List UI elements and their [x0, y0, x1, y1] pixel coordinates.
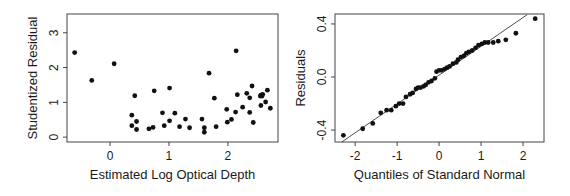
- data-point: [533, 16, 538, 21]
- data-point: [160, 110, 165, 115]
- data-point: [513, 31, 518, 36]
- data-point: [234, 48, 239, 53]
- x-tick-label: 1: [478, 149, 485, 163]
- data-point: [389, 108, 394, 113]
- data-point: [496, 39, 501, 44]
- data-point: [214, 124, 219, 129]
- data-point: [486, 40, 491, 45]
- data-point: [89, 78, 94, 83]
- data-point: [200, 117, 205, 122]
- data-point: [247, 95, 252, 100]
- data-point: [112, 61, 117, 66]
- data-point: [265, 88, 270, 93]
- data-point: [229, 117, 234, 122]
- data-point: [183, 117, 188, 122]
- x-axis-label: Estimated Log Optical Depth: [90, 167, 255, 182]
- data-point: [207, 71, 212, 76]
- data-point: [235, 92, 240, 97]
- data-point: [225, 120, 230, 125]
- data-point: [410, 91, 415, 96]
- data-point: [247, 110, 252, 115]
- data-point: [134, 127, 139, 132]
- data-point: [129, 123, 134, 128]
- data-point: [404, 95, 409, 100]
- y-tick-label: -0.4: [315, 119, 329, 140]
- data-point: [224, 107, 229, 112]
- figure-canvas: 0120123 Estimated Log Optical Depth Stud…: [0, 0, 570, 196]
- y-tick-label: 1: [47, 99, 61, 106]
- y-axis-label: Studentized Residual: [25, 16, 40, 139]
- x-tick-label: 2: [520, 149, 527, 163]
- data-point: [72, 50, 77, 55]
- data-point: [167, 86, 172, 91]
- residual-vs-depth-plot: 0120123 Estimated Log Optical Depth Stud…: [25, 14, 278, 182]
- data-point: [202, 125, 207, 130]
- data-point: [132, 93, 137, 98]
- data-point: [187, 125, 192, 130]
- data-point: [341, 133, 346, 138]
- data-point: [263, 100, 268, 105]
- data-point: [162, 123, 167, 128]
- y-tick-label: 0: [47, 133, 61, 140]
- x-tick-label: 0: [436, 149, 443, 163]
- data-point: [259, 103, 264, 108]
- data-point: [250, 84, 255, 89]
- y-tick-label: 3: [47, 29, 61, 36]
- data-point: [152, 88, 157, 93]
- data-point: [134, 119, 139, 124]
- plot-frame: [67, 14, 278, 142]
- y-tick-label: 2: [47, 64, 61, 71]
- data-point: [268, 106, 273, 111]
- axis-ticks: 0120123: [47, 29, 232, 163]
- data-point: [401, 101, 406, 106]
- data-point: [129, 113, 134, 118]
- plot-frame: [335, 14, 544, 142]
- data-point: [244, 91, 249, 96]
- data-point: [432, 76, 437, 81]
- data-point: [177, 124, 182, 129]
- x-tick-label: 0: [107, 149, 114, 163]
- data-point: [147, 126, 152, 131]
- data-point: [172, 111, 177, 116]
- data-points: [72, 48, 272, 134]
- x-tick-label: -1: [392, 149, 403, 163]
- data-point: [202, 130, 207, 135]
- x-tick-label: 1: [166, 149, 173, 163]
- y-tick-label: 0.4: [315, 15, 329, 32]
- data-point: [251, 120, 256, 125]
- data-point: [491, 40, 496, 45]
- data-point: [167, 118, 172, 123]
- data-point: [378, 110, 383, 115]
- qq-plot: -2-1012-0.40.00.4 Quantiles of Standard …: [293, 14, 544, 182]
- data-point: [384, 108, 389, 113]
- data-point: [260, 92, 265, 97]
- x-tick-label: 2: [225, 149, 232, 163]
- data-point: [151, 125, 156, 130]
- data-point: [212, 96, 217, 101]
- data-point: [370, 121, 375, 126]
- x-tick-label: -2: [350, 149, 361, 163]
- data-point: [503, 37, 508, 42]
- y-tick-label: 0.0: [315, 68, 329, 85]
- data-point: [233, 110, 238, 115]
- data-points: [341, 16, 538, 138]
- data-point: [360, 126, 365, 131]
- y-axis-label: Residuals: [293, 49, 308, 107]
- x-axis-label: Quantiles of Standard Normal: [354, 167, 525, 182]
- data-point: [240, 105, 245, 110]
